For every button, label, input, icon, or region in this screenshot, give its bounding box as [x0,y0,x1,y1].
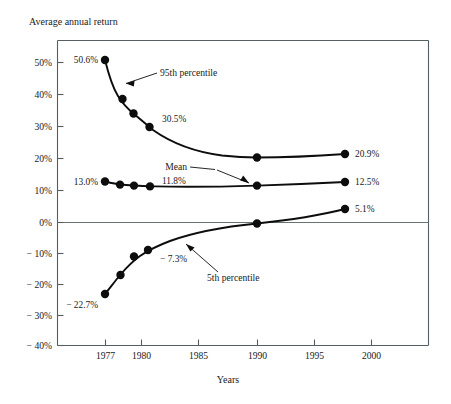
annotation-mean-arrowhead [240,176,249,183]
y-tick-label-40: 40% [34,89,52,100]
marker-5th-1980 [144,246,152,254]
y-tick-label-0: 0% [39,217,52,228]
chart-svg: Average annual return 50% 40% [0,0,451,404]
x-tick-label-1990: 1990 [248,350,267,361]
y-tick-label-neg40: − 40% [27,340,52,351]
marker-mean-1980 [146,182,154,190]
y-tick-label-10: 10% [34,185,52,196]
y-axis-tick-labels: 50% 40% 30% 20% 10% 0% − 10% − 20% − 30%… [27,57,52,351]
label-mean-start: 13.0% [74,177,98,187]
marker-mean-1997 [341,178,349,186]
marker-95th-1997 [341,150,349,158]
marker-5th-1997 [341,205,349,213]
label-mean-mid: 11.8% [162,176,186,186]
marker-5th-1979 [130,252,138,260]
annotation-5th-text: 5th percentile [207,272,259,283]
annotation-95th-leader [126,73,157,84]
label-95th-mid: 30.5% [162,114,186,124]
x-tick-label-1995: 1995 [305,350,324,361]
label-95th-end: 20.9% [355,149,379,159]
label-mean-end: 12.5% [355,177,379,187]
annotation-5th-percentile: 5th percentile [186,244,259,283]
marker-95th-1978 [118,95,126,103]
annotation-95th-text: 95th percentile [160,67,217,78]
y-tick-label-20: 20% [34,153,52,164]
annotation-mean-text: Mean [165,161,187,172]
y-axis-title: Average annual return [29,16,118,27]
series-95th-path [105,60,345,158]
marker-95th-1979 [129,109,137,117]
label-95th-start: 50.6% [74,55,98,65]
marker-95th-1977 [101,56,109,64]
marker-95th-1980 [145,123,153,131]
y-tick-label-neg10: − 10% [27,248,52,259]
marker-mean-1978 [116,180,124,188]
annotation-95th-arrowhead [126,81,135,87]
x-axis-title: Years [217,374,239,385]
marker-5th-1990 [253,219,261,227]
marker-mean-1979 [130,181,138,189]
chart-figure: Average annual return 50% 40% [0,0,451,404]
y-tick-label-30: 30% [34,121,52,132]
x-tick-label-1977: 1977 [96,350,115,361]
label-5th-start: − 22.7% [66,300,98,310]
annotation-95th-percentile: 95th percentile [126,67,217,87]
label-5th-end: 5.1% [355,204,375,214]
y-axis-ticks [58,63,64,346]
series-mean-path [105,182,345,187]
marker-5th-1978 [116,271,124,279]
y-tick-label-50: 50% [34,57,52,68]
x-axis-ticks [106,340,372,346]
annotation-mean-leader-tail [190,167,215,170]
x-tick-label-2000: 2000 [362,350,381,361]
series-95th-percentile: 50.6% 30.5% 20.9% [74,55,380,162]
marker-mean-1977 [101,177,109,185]
y-tick-label-neg20: − 20% [27,279,52,290]
x-tick-label-1980: 1980 [132,350,151,361]
marker-5th-1977 [101,290,109,298]
x-tick-label-1985: 1985 [189,350,208,361]
marker-95th-1990 [253,153,261,161]
label-5th-mid: − 7.3% [160,254,187,264]
x-axis-tick-labels: 1977 1980 1985 1990 1995 2000 [96,350,381,361]
marker-mean-1990 [253,181,261,189]
series-mean: 13.0% 11.8% 12.5% [74,176,380,191]
y-tick-label-neg30: − 30% [27,310,52,321]
series-5th-percentile: − 22.7% − 7.3% 5.1% [66,204,375,310]
